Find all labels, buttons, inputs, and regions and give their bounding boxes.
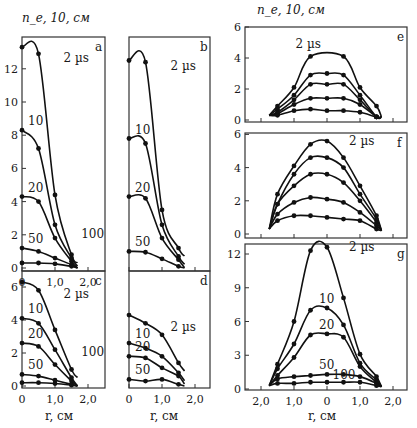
data-point: [308, 195, 313, 200]
data-point: [374, 383, 379, 388]
data-point: [127, 136, 132, 141]
series-label: 10: [135, 123, 150, 137]
data-point: [36, 146, 41, 151]
data-point: [292, 342, 297, 347]
data-point: [143, 379, 148, 384]
series-label: 2 µs: [170, 320, 195, 334]
y-tick-label: 6: [234, 21, 241, 34]
data-point: [325, 96, 330, 101]
series-label: 2 µs: [63, 51, 88, 65]
data-point: [53, 261, 58, 266]
data-point: [53, 193, 58, 198]
data-point: [341, 217, 346, 222]
data-point: [176, 264, 181, 269]
x-tick-label: 2,0: [384, 395, 402, 408]
y-tick-label: 2: [11, 229, 18, 242]
data-point: [341, 295, 346, 300]
data-point: [358, 374, 363, 379]
y-tick-label: 2: [234, 195, 241, 208]
data-point: [308, 172, 313, 177]
x-tick-label: 1,0: [285, 395, 303, 408]
figure: a02468101201,02,02 µs102050100b2 µs10205…: [0, 0, 417, 428]
y-tick-label: 12: [4, 63, 18, 76]
data-point: [36, 380, 41, 385]
x-tick-label: 2,0: [252, 395, 270, 408]
x-axis-title-g: r, см: [308, 409, 336, 423]
panel-c-label: c: [95, 274, 102, 288]
data-point: [292, 172, 297, 177]
y-tick-label: 0: [234, 383, 241, 396]
data-point: [160, 365, 165, 370]
data-point: [308, 96, 313, 101]
data-point: [325, 380, 330, 385]
data-point: [160, 377, 165, 382]
data-point: [341, 335, 346, 340]
series-label: 50: [28, 232, 43, 246]
data-point: [308, 142, 313, 147]
y-tick-label: 9: [234, 282, 241, 295]
data-point: [292, 213, 297, 218]
data-point: [374, 104, 379, 109]
data-point: [325, 197, 330, 202]
series-label: 2 µs: [296, 37, 321, 51]
data-curves: [20, 41, 382, 388]
x-tick-label: 0: [19, 393, 26, 406]
panel-b-label: b: [200, 40, 208, 54]
data-point: [325, 306, 330, 311]
y-axis-title-right: n_e, 10, см: [257, 3, 325, 17]
data-point: [308, 248, 313, 253]
data-point: [275, 192, 280, 197]
data-point: [160, 222, 165, 227]
y-tick-label: 6: [234, 128, 241, 141]
y-tick-label: 12: [227, 248, 241, 261]
data-point: [69, 367, 74, 372]
data-point: [292, 102, 297, 107]
series-label: 2 µs: [170, 59, 195, 73]
data-point: [341, 200, 346, 205]
data-point: [358, 198, 363, 203]
series-label: 100: [333, 368, 356, 382]
data-point: [325, 245, 330, 250]
series-label: 50: [28, 358, 43, 372]
data-point: [176, 361, 181, 366]
data-point: [308, 373, 313, 378]
x-tick-label: 2,0: [79, 393, 97, 406]
x-axis-title-c: r, см: [45, 409, 73, 423]
data-point: [53, 381, 58, 386]
curve-a-0: [22, 41, 78, 263]
data-point: [20, 316, 25, 321]
data-point: [325, 331, 330, 336]
series-label: 100: [81, 345, 104, 359]
data-point: [53, 256, 58, 261]
data-point: [53, 362, 58, 367]
series-label: 100: [81, 227, 104, 241]
data-point: [341, 108, 346, 113]
data-point: [358, 380, 363, 385]
data-point: [325, 82, 330, 87]
data-point: [341, 82, 346, 87]
data-point: [176, 246, 181, 251]
data-point: [127, 58, 132, 63]
data-point: [358, 352, 363, 357]
data-point: [358, 210, 363, 215]
data-point: [160, 256, 165, 261]
data-point: [358, 110, 363, 115]
data-point: [160, 236, 165, 241]
data-point: [160, 208, 165, 213]
data-point: [20, 261, 25, 266]
data-point: [36, 288, 41, 293]
data-point: [292, 164, 297, 169]
y-tick-label: 4: [11, 314, 18, 327]
data-point: [325, 172, 330, 177]
data-point: [292, 319, 297, 324]
y-tick-label: 6: [234, 316, 241, 329]
series-label: 2 µs: [349, 134, 374, 148]
data-point: [36, 374, 41, 379]
data-point: [292, 93, 297, 98]
data-point: [143, 60, 148, 65]
series-label: 10: [319, 292, 334, 306]
x-tick-label: 1,0: [46, 276, 64, 289]
data-point: [275, 366, 280, 371]
data-point: [292, 381, 297, 386]
data-point: [20, 128, 25, 133]
